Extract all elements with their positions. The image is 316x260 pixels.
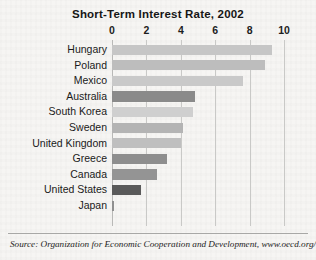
bar [112, 185, 141, 195]
bar-row: Hungary [112, 42, 284, 58]
category-label: Australia [66, 89, 107, 105]
bar-row: Poland [112, 58, 284, 74]
x-tick-label: 10 [278, 24, 290, 36]
bar [112, 91, 195, 101]
category-label: Sweden [69, 120, 107, 136]
x-tick-label: 4 [178, 24, 184, 36]
category-label: Mexico [74, 73, 107, 89]
bar [112, 60, 265, 70]
bar-rows: HungaryPolandMexicoAustraliaSouth KoreaS… [112, 40, 284, 226]
bar-row: Sweden [112, 120, 284, 136]
source-divider [8, 233, 308, 234]
chart-title: Short-Term Interest Rate, 2002 [0, 8, 316, 20]
bar-row: Australia [112, 89, 284, 105]
category-label: United States [44, 182, 107, 198]
bar-row: Japan [112, 198, 284, 214]
bar [112, 169, 157, 179]
category-label: South Korea [49, 104, 107, 120]
category-label: Japan [78, 198, 107, 214]
category-label: Poland [74, 58, 107, 74]
bar [112, 123, 183, 133]
chart-figure: Short-Term Interest Rate, 2002 0246810 H… [0, 0, 316, 260]
category-label: Canada [70, 167, 107, 183]
bar-row: United States [112, 182, 284, 198]
source-note: Source: Organization for Economic Cooper… [10, 239, 316, 249]
plot-area: HungaryPolandMexicoAustraliaSouth KoreaS… [112, 40, 284, 226]
bar [112, 45, 272, 55]
gridline [284, 40, 285, 226]
bar-row: Canada [112, 167, 284, 183]
bar-row: Greece [112, 151, 284, 167]
x-tick-label: 6 [212, 24, 218, 36]
bar [112, 138, 181, 148]
x-tick-label: 2 [143, 24, 149, 36]
x-tick-label: 0 [109, 24, 115, 36]
bar-row: South Korea [112, 104, 284, 120]
category-label: Hungary [67, 42, 107, 58]
bar [112, 107, 193, 117]
category-label: Greece [73, 151, 107, 167]
bar [112, 201, 114, 211]
x-tick-label: 8 [247, 24, 253, 36]
bar [112, 154, 167, 164]
x-axis-tick-labels: 0246810 [112, 24, 284, 38]
category-label: United Kingdom [32, 136, 107, 152]
bar-row: United Kingdom [112, 136, 284, 152]
bar-row: Mexico [112, 73, 284, 89]
bar [112, 76, 243, 86]
